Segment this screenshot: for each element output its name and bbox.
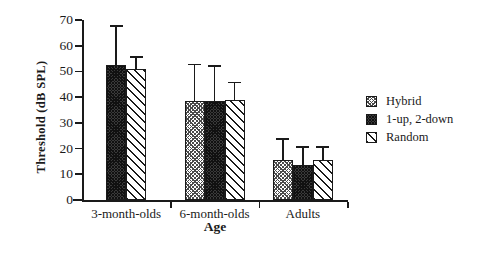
x-tick	[170, 202, 172, 208]
bar-1-up-2-down	[205, 101, 225, 200]
y-tick	[73, 199, 82, 201]
y-tick-label: 70	[60, 12, 74, 28]
legend-item: 1-up, 2-down	[366, 111, 453, 127]
error-bar-cap	[188, 64, 201, 66]
error-bar-stem	[234, 82, 236, 100]
y-axis-title-wrapper: Threshold (dB SPL)	[6, 95, 26, 115]
y-tick	[75, 96, 82, 98]
legend-swatch-icon	[366, 132, 377, 143]
bar-hybrid	[185, 101, 205, 200]
y-tick-label: 30	[60, 115, 74, 131]
y-tick	[75, 122, 82, 124]
bar-1-up-2-down	[106, 65, 126, 200]
bar-random	[126, 69, 146, 200]
y-tick	[75, 19, 82, 21]
bar-1-up-2-down	[293, 165, 313, 200]
error-bar-cap	[228, 82, 241, 84]
plot-area: 010203040506070 3-month-olds6-month-olds…	[82, 20, 347, 200]
y-tick	[75, 71, 82, 73]
y-tick-label: 10	[60, 166, 74, 182]
y-tick	[75, 148, 82, 150]
x-axis-line	[82, 200, 348, 202]
legend-label: 1-up, 2-down	[386, 112, 453, 127]
legend: Hybrid1-up, 2-downRandom	[366, 93, 453, 147]
y-tick-label: 40	[60, 89, 74, 105]
legend-label: Random	[386, 130, 428, 145]
error-bar-stem	[282, 138, 284, 160]
bar-hybrid	[273, 160, 293, 200]
error-bar-stem	[115, 25, 117, 65]
x-axis-title: Age	[82, 219, 348, 235]
legend-swatch-icon	[366, 114, 377, 125]
error-bar-stem	[135, 56, 137, 69]
y-tick-label: 20	[60, 141, 74, 157]
x-tick	[259, 202, 261, 208]
y-tick	[75, 45, 82, 47]
error-bar-cap	[130, 56, 143, 58]
legend-swatch-icon	[366, 96, 377, 107]
x-tick	[347, 202, 349, 208]
bar-random	[225, 100, 245, 200]
y-tick-label: 0	[66, 192, 73, 208]
y-axis-line	[82, 20, 84, 201]
y-tick	[75, 173, 82, 175]
legend-item: Hybrid	[366, 93, 453, 109]
legend-item: Random	[366, 129, 453, 145]
error-bar-cap	[110, 25, 123, 27]
bar-random	[313, 160, 333, 200]
y-tick-label: 60	[60, 38, 74, 54]
error-bar-cap	[208, 65, 221, 67]
error-bar-stem	[214, 65, 216, 101]
y-axis-title: Threshold (dB SPL)	[31, 22, 51, 212]
error-bar-cap	[316, 146, 329, 148]
error-bar-stem	[322, 146, 324, 160]
error-bar-stem	[194, 64, 196, 101]
legend-label: Hybrid	[386, 94, 421, 109]
error-bar-cap	[276, 138, 289, 140]
y-tick-label: 50	[60, 63, 74, 79]
error-bar-stem	[302, 146, 304, 165]
chart-figure: Threshold (dB SPL) 010203040506070 3-mon…	[0, 0, 490, 256]
error-bar-cap	[296, 146, 309, 148]
